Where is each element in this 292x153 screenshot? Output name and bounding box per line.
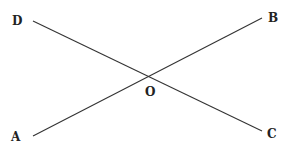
point-label-o: O — [145, 85, 155, 99]
line-dc — [33, 21, 262, 131]
point-label-a: A — [10, 130, 21, 144]
point-label-b: B — [268, 11, 278, 25]
point-label-c: C — [267, 127, 277, 141]
diagram-canvas: D B A C O — [0, 0, 292, 153]
line-ab — [33, 18, 262, 136]
point-label-d: D — [12, 14, 22, 28]
